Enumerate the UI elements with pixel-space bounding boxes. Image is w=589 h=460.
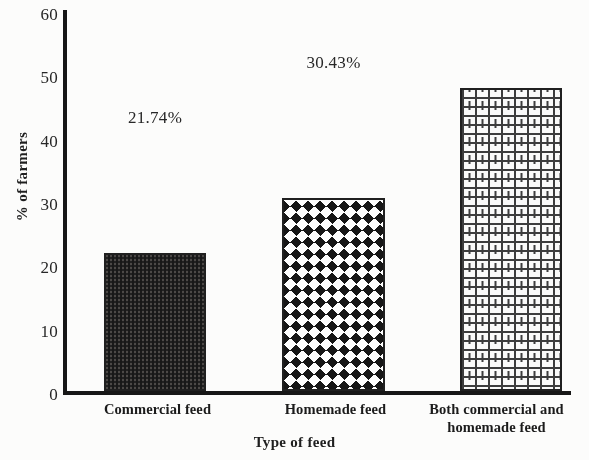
y-tick-60: 60 [14,6,58,23]
x-category-both-feeds-line2: homemade feed [447,419,545,435]
x-category-commercial-feed-line1: Commercial feed [104,401,211,417]
y-axis-title: % of farmers [14,107,31,247]
y-tick-10: 10 [14,323,58,340]
x-category-both-feeds: Both commercial and homemade feed [404,400,589,436]
bar-homemade-feed[interactable] [282,198,385,391]
y-tick-0: 0 [14,386,58,403]
plot-area: 21.74% 30.43% 47.83% [67,10,571,391]
y-tick-20: 20 [14,259,58,276]
bar-commercial-feed[interactable] [104,253,206,391]
bar-label-homemade-feed: 30.43% [245,54,422,71]
bar-chart-figure: 60 50 40 30 20 10 0 % of farmers 21.74% … [0,0,589,460]
x-axis-title: Type of feed [0,434,589,451]
bar-both-feeds[interactable] [460,88,562,391]
x-category-commercial-feed: Commercial feed [60,400,255,418]
bar-label-commercial-feed: 21.74% [67,109,243,126]
y-tick-50: 50 [14,69,58,86]
x-category-homemade-feed-line1: Homemade feed [285,401,387,417]
x-category-both-feeds-line1: Both commercial and [429,401,564,417]
x-axis-line [63,391,571,395]
